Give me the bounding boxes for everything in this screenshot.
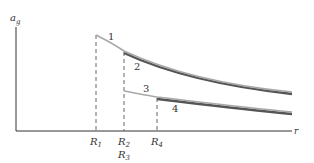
- y-axis-label: ag: [10, 12, 21, 26]
- marker-r1: R1: [89, 136, 102, 149]
- marker-r4: R4: [150, 136, 163, 149]
- x-axis-label: r: [294, 126, 299, 136]
- curve-4-label: 4: [172, 103, 178, 114]
- curve-1: [96, 35, 292, 92]
- marker-r2: R2: [117, 136, 131, 149]
- curve-1-label: 1: [108, 31, 114, 42]
- curve-3: [124, 91, 292, 112]
- curve-2-label: 2: [134, 61, 140, 72]
- curve-3-label: 3: [143, 83, 149, 94]
- diagram-canvas: 1 2 3 4 ag r R1 R2 R3 R4: [0, 0, 314, 163]
- marker-r3: R3: [117, 149, 131, 162]
